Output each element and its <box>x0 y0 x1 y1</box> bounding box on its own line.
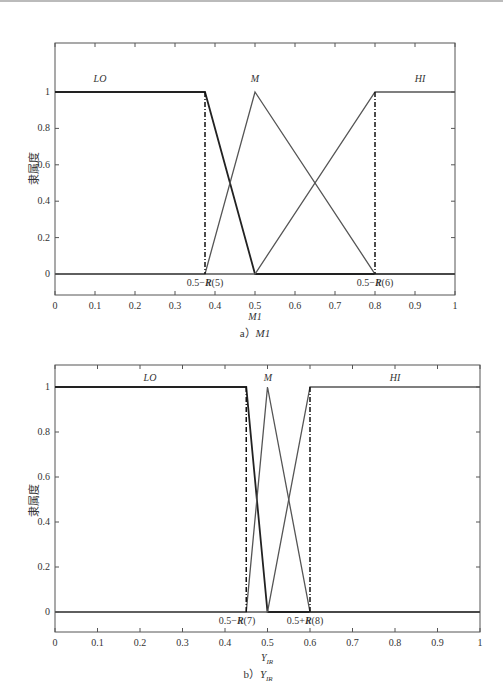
membership-lines <box>55 387 480 612</box>
y-axis-label: 隶属度 <box>27 152 40 185</box>
chart-caption: a）M1 <box>240 327 271 339</box>
annotation-r8: 0.5+R(8) <box>287 615 323 627</box>
x-tick-label: 0.7 <box>346 637 359 648</box>
x-tick-label: 0.9 <box>409 300 422 311</box>
chart-yir: 00.10.20.30.40.50.60.70.80.91 00.20.40.6… <box>0 345 503 693</box>
annotation-r6: 0.5−R(6) <box>357 277 393 289</box>
series-lo <box>55 92 455 274</box>
annotation-lines <box>246 387 310 612</box>
membership-lines <box>55 92 455 274</box>
y-tick-label: 0 <box>45 606 50 617</box>
series-hi <box>55 387 480 612</box>
x-axis-label: YIR <box>261 652 274 666</box>
lo-label: LO <box>93 73 107 84</box>
x-tick-label: 0.3 <box>169 300 182 311</box>
annotation-r5: 0.5−R(5) <box>187 277 223 289</box>
x-tick-label: 0.6 <box>304 637 317 648</box>
y-tick-label: 1 <box>45 86 50 97</box>
x-tick-label: 0.3 <box>176 637 189 648</box>
y-tick-label: 0.4 <box>38 516 51 527</box>
x-tick-label: 1 <box>478 637 483 648</box>
y-axis-ticks: 00.20.40.60.81 <box>38 86 456 279</box>
y-tick-label: 0.2 <box>38 561 51 572</box>
x-tick-label: 0.7 <box>329 300 342 311</box>
y-tick-label: 1 <box>45 381 50 392</box>
m-label: M <box>250 73 260 84</box>
m-label: M <box>263 372 273 383</box>
x-tick-label: 0.8 <box>369 300 382 311</box>
x-tick-label: 0.1 <box>91 637 104 648</box>
x-tick-label: 0.2 <box>134 637 147 648</box>
y-tick-label: 0.6 <box>38 471 51 482</box>
series-m <box>55 92 455 274</box>
x-tick-label: 0.5 <box>261 637 274 648</box>
x-tick-label: 0.2 <box>129 300 142 311</box>
x-tick-label: 0.8 <box>389 637 402 648</box>
x-tick-label: 0.4 <box>209 300 222 311</box>
x-tick-label: 0.1 <box>89 300 102 311</box>
x-tick-label: 0 <box>53 300 58 311</box>
y-tick-label: 0.8 <box>38 426 51 437</box>
y-tick-label: 0.4 <box>38 195 51 206</box>
x-tick-label: 0.5 <box>249 300 262 311</box>
x-tick-label: 1 <box>453 300 458 311</box>
x-tick-label: 0.6 <box>289 300 302 311</box>
y-tick-label: 0.8 <box>38 122 51 133</box>
hi-label: HI <box>389 372 401 383</box>
chart-m1: 00.10.20.30.40.50.60.70.80.91 00.20.40.6… <box>0 0 503 345</box>
y-axis-ticks: 00.20.40.60.81 <box>38 381 481 617</box>
y-tick-label: 0.2 <box>38 232 51 243</box>
lo-label: LO <box>143 372 157 383</box>
series-m <box>55 387 480 612</box>
series-hi <box>55 92 455 274</box>
y-tick-label: 0 <box>45 268 50 279</box>
x-tick-label: 0.4 <box>219 637 232 648</box>
chart-caption: b）YIR <box>243 668 273 683</box>
x-tick-label: 0 <box>53 637 58 648</box>
x-tick-label: 0.9 <box>431 637 444 648</box>
annotation-r7: 0.5−R(7) <box>219 615 255 627</box>
hi-label: HI <box>414 73 426 84</box>
x-axis-label: M1 <box>247 311 261 322</box>
plot-frame <box>55 365 480 632</box>
y-axis-label: 隶属度 <box>27 484 40 517</box>
series-lo <box>55 387 480 612</box>
